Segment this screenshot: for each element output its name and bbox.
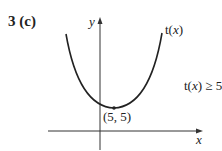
function-label-prefix: t( [165,22,173,37]
graph [0,0,222,151]
vertex-label: (5, 5) [103,110,131,123]
inequality-prefix: t( [184,78,192,93]
range-inequality: t(x) ≥ 5 [184,79,222,92]
function-label-suffix: ) [179,22,183,37]
y-axis-label: y [89,15,95,28]
x-axis-label: x [196,133,202,146]
function-label: t(x) [165,23,183,36]
inequality-suffix: ) ≥ 5 [198,78,222,93]
y-axis-arrow-icon [98,17,103,24]
parabola-curve [66,33,162,108]
